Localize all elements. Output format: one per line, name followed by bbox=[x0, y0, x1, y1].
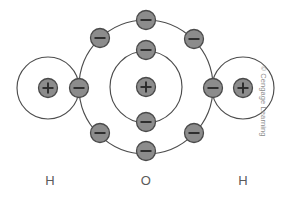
nucleus-hydrogen-right bbox=[234, 79, 253, 98]
nucleus-hydrogen-left bbox=[39, 79, 58, 98]
electron-oxygen-outer-lower-left bbox=[91, 124, 110, 143]
electron-shared-left-bond bbox=[70, 79, 89, 98]
electron-oxygen-outer-lower-right bbox=[185, 124, 204, 143]
copyright-credit: © Cengage Learning bbox=[259, 65, 268, 136]
electron-shared-right-bond bbox=[204, 79, 223, 98]
electron-oxygen-inner-bottom bbox=[137, 113, 156, 132]
label-hydrogen-right: H bbox=[238, 173, 248, 188]
label-hydrogen-left: H bbox=[45, 173, 55, 188]
electron-oxygen-inner-top bbox=[137, 41, 156, 60]
water-molecule-figure: H O H © Cengage Learning bbox=[0, 0, 300, 202]
electron-oxygen-outer-top bbox=[137, 11, 156, 30]
nucleus-oxygen bbox=[137, 78, 156, 97]
label-oxygen: O bbox=[141, 173, 151, 188]
electron-oxygen-outer-bottom bbox=[137, 142, 156, 161]
electron-oxygen-outer-upper-left bbox=[91, 29, 110, 48]
electron-oxygen-outer-upper-right bbox=[185, 30, 204, 49]
